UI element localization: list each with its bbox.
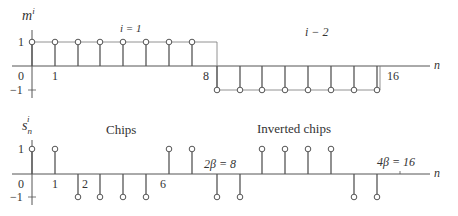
top-tick-y-plus: 1 <box>18 35 24 49</box>
stem-marker <box>143 194 149 200</box>
top-y-label: mi <box>22 6 35 23</box>
stem-marker <box>282 146 288 152</box>
stem-marker <box>143 39 149 45</box>
stem-marker <box>75 194 81 200</box>
stem-marker <box>214 87 220 93</box>
stem-marker <box>351 194 357 200</box>
stem-marker <box>166 146 172 152</box>
stem-marker <box>120 39 126 45</box>
stem-marker <box>259 87 265 93</box>
bottom-tick-origin: 0 <box>18 177 24 191</box>
top-plot-message-signal: mi n i = 1 i − 2 1 −1 0 1 8 16 <box>10 6 440 98</box>
stem-marker <box>75 39 81 45</box>
bottom-tick-1: 1 <box>52 177 58 191</box>
stem-marker <box>237 87 243 93</box>
stem-marker <box>97 39 103 45</box>
stem-marker <box>374 194 380 200</box>
bottom-y-label: sni <box>22 114 32 136</box>
top-x-label: n <box>434 58 440 72</box>
top-tick-8: 8 <box>203 69 209 83</box>
stem-marker <box>166 39 172 45</box>
stem-marker <box>29 39 35 45</box>
stem-marker <box>189 146 195 152</box>
stem-marker <box>282 87 288 93</box>
stem-marker <box>189 39 195 45</box>
stem-marker <box>328 146 334 152</box>
stem-marker <box>97 194 103 200</box>
top-annotation-i2: i − 2 <box>305 25 328 39</box>
bottom-tick-y-minus: −1 <box>10 190 23 204</box>
top-tick-y-minus: −1 <box>10 83 23 97</box>
stem-marker <box>120 194 126 200</box>
stem-marker <box>52 39 58 45</box>
stem-marker <box>214 194 220 200</box>
stem-marker <box>328 87 334 93</box>
stem-marker <box>29 146 35 152</box>
bottom-annotation-inverted: Inverted chips <box>257 121 331 136</box>
stem-marker <box>305 87 311 93</box>
spread-spectrum-diagram: mi n i = 1 i − 2 1 −1 0 1 8 16 sni n Chi… <box>0 0 458 216</box>
stem-marker <box>305 146 311 152</box>
top-annotation-i1: i = 1 <box>120 22 141 34</box>
stem-marker <box>351 87 357 93</box>
stem-marker <box>237 194 243 200</box>
top-tick-1: 1 <box>52 69 58 83</box>
stem-marker <box>259 146 265 152</box>
top-tick-16: 16 <box>387 69 399 83</box>
bottom-annotation-chips: Chips <box>106 122 136 137</box>
bottom-plot-chip-sequence: sni n Chips Inverted chips 1 −1 0 1 2 6 … <box>10 114 440 205</box>
stem-marker <box>52 146 58 152</box>
bottom-stems <box>29 146 380 200</box>
bottom-x-label: n <box>434 166 440 180</box>
bottom-tick-y-plus: 1 <box>18 142 24 156</box>
stem-marker <box>374 87 380 93</box>
bottom-tick-6: 6 <box>160 177 166 191</box>
bottom-tick-4beta: 4β = 16 <box>377 155 415 169</box>
bottom-tick-2: 2 <box>82 177 88 191</box>
top-tick-origin: 0 <box>18 69 24 83</box>
bottom-tick-2beta: 2β = 8 <box>204 157 236 171</box>
